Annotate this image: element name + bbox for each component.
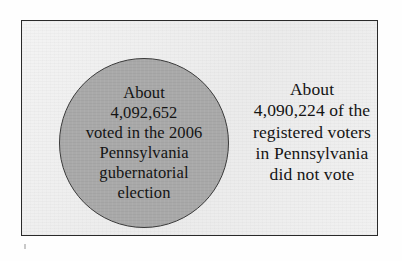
scan-artifact (24, 244, 26, 249)
voted-line-5: gubernatorial (60, 163, 228, 183)
voted-line-6: election (60, 183, 228, 203)
voted-line-4: Pennsylvania (60, 143, 228, 163)
did-not-vote-line-2: 4,090,224 of the (231, 100, 393, 121)
diagram-frame: About 4,092,652 voted in the 2006 Pennsy… (21, 20, 378, 236)
did-not-vote-line-3: registered voters (231, 122, 393, 143)
voted-line-1: About (60, 83, 228, 103)
did-not-vote-line-5: did not vote (231, 164, 393, 185)
did-not-vote-line-4: in Pennsylvania (231, 143, 393, 164)
diagram-canvas: About 4,092,652 voted in the 2006 Pennsy… (0, 0, 402, 261)
voted-circle: About 4,092,652 voted in the 2006 Pennsy… (59, 58, 229, 228)
voted-line-2: 4,092,652 (60, 103, 228, 123)
voted-circle-caption: About 4,092,652 voted in the 2006 Pennsy… (60, 83, 228, 204)
did-not-vote-line-1: About (231, 79, 393, 100)
did-not-vote-caption: About 4,090,224 of the registered voters… (231, 79, 393, 186)
voted-line-3: voted in the 2006 (60, 123, 228, 143)
